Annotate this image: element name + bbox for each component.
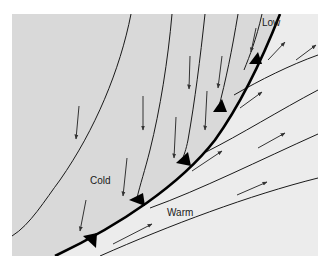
warm-air-label: Warm bbox=[167, 207, 193, 218]
cold-air-label: Cold bbox=[90, 175, 111, 186]
low-pressure-label: Low bbox=[262, 17, 281, 28]
cold-front-diagram: Low Cold Warm bbox=[0, 0, 330, 268]
